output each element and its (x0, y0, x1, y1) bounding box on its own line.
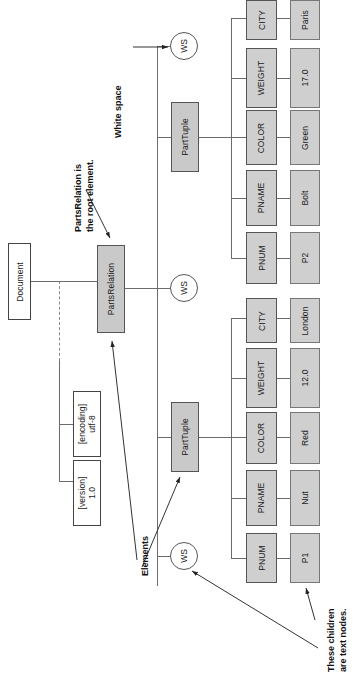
arrow-textnodes-value (306, 588, 315, 620)
annotation-text-nodes-line1: These children (326, 608, 336, 672)
annotation-text-nodes: These children are text nodes. (325, 608, 349, 672)
annotation-elements: Elements (139, 536, 151, 576)
annotation-arrows (0, 0, 355, 678)
annotation-root-note-line1: PartsRelation is (73, 164, 83, 232)
annotation-white-space: White space (112, 85, 124, 138)
annotation-root-note-line2: the root element. (85, 159, 95, 232)
arrow-elements-partsrelation (112, 341, 137, 560)
annotation-root-note: PartsRelation is the root element. (72, 159, 96, 232)
annotation-text-nodes-line2: are text nodes. (338, 608, 348, 672)
diagram-canvas: Document PartsRelation [encoding]utf-8 [… (0, 0, 355, 678)
arrow-textnodes-ws (192, 571, 318, 648)
